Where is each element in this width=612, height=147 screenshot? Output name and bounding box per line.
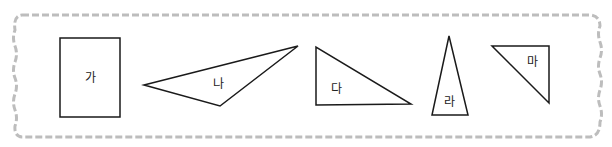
shape-label-ga: 가 (85, 71, 96, 85)
shapes-diagram: 가나다라마 (0, 0, 612, 147)
shape-na-triangle (144, 46, 298, 106)
shape-da-triangle (316, 47, 411, 105)
shape-label-ma: 마 (527, 55, 538, 69)
shape-ma-triangle (492, 46, 549, 103)
dashed-frame (14, 15, 602, 137)
shape-label-da: 다 (331, 82, 342, 96)
shape-label-ra: 라 (444, 95, 455, 109)
shape-label-na: 나 (213, 77, 224, 91)
